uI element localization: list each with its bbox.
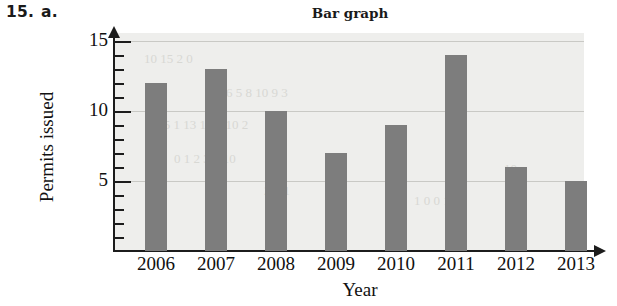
x-axis-tick-label: 2013	[546, 254, 606, 275]
x-axis-tick-label: 2011	[426, 254, 486, 275]
y-axis-minor-tick	[115, 237, 124, 239]
bar	[325, 153, 347, 251]
y-axis-major-tick	[115, 111, 131, 113]
y-axis-minor-tick	[115, 83, 124, 85]
x-axis-title: Year	[300, 279, 420, 301]
y-axis-tick-label: 15	[74, 30, 108, 49]
y-axis-minor-tick	[115, 223, 124, 225]
gridline	[114, 111, 584, 112]
bar	[265, 111, 287, 251]
x-axis-tick-label: 2009	[306, 254, 366, 275]
y-axis-minor-tick	[115, 195, 124, 197]
x-axis-tick-label: 2007	[186, 254, 246, 275]
scan-bleed-text: 6 5 8 10 9 3	[226, 85, 288, 101]
x-axis-tick-label: 2012	[486, 254, 546, 275]
y-axis-minor-tick	[115, 69, 124, 71]
x-axis-tick-label: 2008	[246, 254, 306, 275]
scan-bleed-text: 4 5 1 13 1 14 10 2	[154, 117, 248, 133]
y-axis-minor-tick	[115, 97, 124, 99]
figure-root: 15.a. Bar graph 10 15 2 06 5 8 10 9 34 5…	[0, 0, 617, 306]
y-axis-major-tick	[115, 181, 131, 183]
y-axis-arrow-icon	[108, 26, 120, 38]
exercise-label: 15.a.	[6, 3, 58, 21]
y-axis-major-tick	[115, 41, 131, 43]
scan-bleed-text: 10 15 2 0	[144, 51, 193, 67]
y-axis-title: Permits issued	[36, 67, 58, 227]
bar	[565, 181, 587, 251]
bar	[505, 167, 527, 251]
x-axis-tick-label: 2006	[126, 254, 186, 275]
y-axis-minor-tick	[115, 209, 124, 211]
y-axis-tick-label: 10	[74, 100, 108, 119]
y-axis-minor-tick	[115, 125, 124, 127]
bar	[145, 83, 167, 251]
y-axis-minor-tick	[115, 139, 124, 141]
bar	[385, 125, 407, 251]
bar	[445, 55, 467, 251]
chart-title: Bar graph	[240, 5, 460, 21]
y-axis-minor-tick	[115, 167, 124, 169]
bar	[205, 69, 227, 251]
y-axis-minor-tick	[115, 153, 124, 155]
exercise-part: a.	[41, 3, 58, 21]
gridline	[114, 41, 584, 42]
exercise-number: 15.	[6, 3, 34, 21]
y-axis-tick-label: 5	[74, 170, 108, 189]
y-axis-minor-tick	[115, 55, 124, 57]
x-axis-tick-label: 2010	[366, 254, 426, 275]
